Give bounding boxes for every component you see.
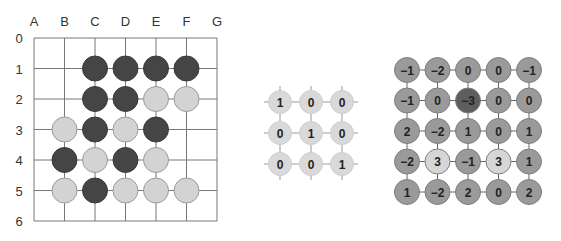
kernel-cell: 0 (331, 122, 354, 145)
white-stone (113, 178, 138, 203)
result-cell: 1 (395, 180, 420, 205)
result-value: 1 (404, 186, 411, 200)
result-value: 0 (495, 186, 502, 200)
result-value: −2 (431, 64, 445, 78)
white-stone (52, 178, 77, 203)
kernel-cell: 0 (269, 122, 292, 145)
row-label: 3 (15, 123, 22, 138)
black-stone (52, 148, 77, 173)
result-cell: 3 (425, 149, 450, 174)
result-cell: 0 (486, 88, 511, 113)
white-stone (174, 178, 199, 203)
column-label: G (212, 14, 222, 29)
white-stone (144, 178, 169, 203)
black-stone (83, 87, 108, 112)
black-stone (144, 117, 169, 142)
white-stone (83, 148, 108, 173)
result-value: −1 (522, 64, 536, 78)
black-stone (83, 56, 108, 81)
kernel-cell: 0 (331, 91, 354, 114)
result-cell: 0 (486, 58, 511, 83)
column-label: C (90, 14, 99, 29)
result-cell: 3 (486, 149, 511, 174)
result-value: 3 (495, 155, 502, 169)
result-value: −1 (400, 64, 414, 78)
result-value: 2 (465, 186, 472, 200)
result-grid: −1−200−1−10−3002−2101−23−1311−2202 (395, 58, 542, 205)
kernel-value: 1 (277, 96, 284, 110)
black-stone (113, 56, 138, 81)
kernel-cell: 1 (269, 91, 292, 114)
result-cell: −2 (425, 180, 450, 205)
black-stone (144, 56, 169, 81)
result-cell: 2 (395, 119, 420, 144)
kernel-cell: 1 (300, 122, 323, 145)
result-value: −2 (400, 155, 414, 169)
kernel-value: 0 (277, 127, 284, 141)
row-label: 1 (15, 62, 22, 77)
result-value: −3 (461, 94, 475, 108)
black-stone (83, 117, 108, 142)
kernel-grid: 100010001 (264, 86, 358, 180)
kernel-value: 1 (308, 127, 315, 141)
result-value: 2 (404, 125, 411, 139)
result-cell: −1 (395, 88, 420, 113)
result-cell: −1 (395, 58, 420, 83)
kernel-cell: 0 (269, 153, 292, 176)
column-label: B (60, 14, 69, 29)
result-value: −1 (461, 155, 475, 169)
result-cell: 1 (517, 119, 542, 144)
black-stone (113, 148, 138, 173)
result-cell: −2 (425, 58, 450, 83)
result-value: 0 (495, 125, 502, 139)
column-label: F (183, 14, 191, 29)
result-cell: 0 (517, 88, 542, 113)
white-stone (52, 117, 77, 142)
result-value: 0 (465, 64, 472, 78)
black-stone (174, 56, 199, 81)
result-value: 2 (526, 186, 533, 200)
result-value: 0 (434, 94, 441, 108)
kernel-value: 0 (339, 127, 346, 141)
result-value: 1 (526, 125, 533, 139)
result-value: −2 (431, 125, 445, 139)
kernel-cell: 0 (300, 153, 323, 176)
row-label: 5 (15, 184, 22, 199)
column-label: E (152, 14, 161, 29)
white-stone (144, 87, 169, 112)
result-value: −1 (400, 94, 414, 108)
white-stone (144, 148, 169, 173)
result-cell: 0 (456, 58, 481, 83)
result-value: 0 (526, 94, 533, 108)
result-cell: 0 (486, 119, 511, 144)
result-value: 1 (526, 155, 533, 169)
result-value: 0 (495, 64, 502, 78)
result-cell: −2 (425, 119, 450, 144)
black-stone (83, 178, 108, 203)
kernel-value: 0 (277, 158, 284, 172)
result-cell: −2 (395, 149, 420, 174)
kernel-value: 0 (308, 158, 315, 172)
result-value: 1 (465, 125, 472, 139)
result-value: 0 (495, 94, 502, 108)
kernel-value: 1 (339, 158, 346, 172)
figure: ABCDEFG0123456 100010001 −1−200−1−10−300… (0, 0, 561, 241)
result-cell: 0 (425, 88, 450, 113)
row-label: 4 (15, 153, 22, 168)
kernel-cell: 0 (300, 91, 323, 114)
white-stone (113, 117, 138, 142)
result-cell: 1 (456, 119, 481, 144)
go-board: ABCDEFG0123456 (15, 14, 222, 229)
result-cell: 1 (517, 149, 542, 174)
result-cell: −1 (517, 58, 542, 83)
result-cell: 2 (456, 180, 481, 205)
result-value: 3 (434, 155, 441, 169)
result-cell: 0 (486, 180, 511, 205)
result-cell: −1 (456, 149, 481, 174)
result-cell: 2 (517, 180, 542, 205)
kernel-cell: 1 (331, 153, 354, 176)
result-cell: −3 (456, 88, 481, 113)
row-label: 2 (15, 92, 22, 107)
column-label: D (121, 14, 130, 29)
white-stone (174, 87, 199, 112)
